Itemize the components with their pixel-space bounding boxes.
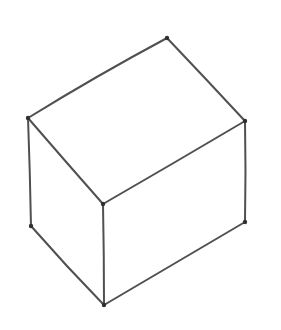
vertex-bottom-right: [243, 220, 247, 224]
edge-left-front: [28, 118, 103, 204]
vertex-top: [165, 36, 169, 40]
sketch-canvas: [0, 0, 281, 330]
edge-right-bottom-right: [245, 121, 246, 222]
edge-top-right: [167, 38, 245, 121]
box-edges: [28, 38, 246, 305]
edge-right-front: [103, 121, 245, 204]
edge-bottom-bottom-right: [104, 222, 245, 305]
vertex-left: [26, 116, 30, 120]
vertex-bottom-left: [29, 224, 33, 228]
edge-bottom-left-bottom: [31, 226, 104, 305]
vertex-bottom: [102, 303, 106, 307]
edge-top-left: [28, 38, 167, 118]
box-sketch: [0, 0, 281, 330]
vertex-right: [243, 119, 247, 123]
vertex-front: [101, 202, 105, 206]
box-vertices: [26, 36, 247, 307]
edge-front-bottom: [103, 204, 104, 305]
edge-left-bottom-left: [28, 118, 31, 226]
